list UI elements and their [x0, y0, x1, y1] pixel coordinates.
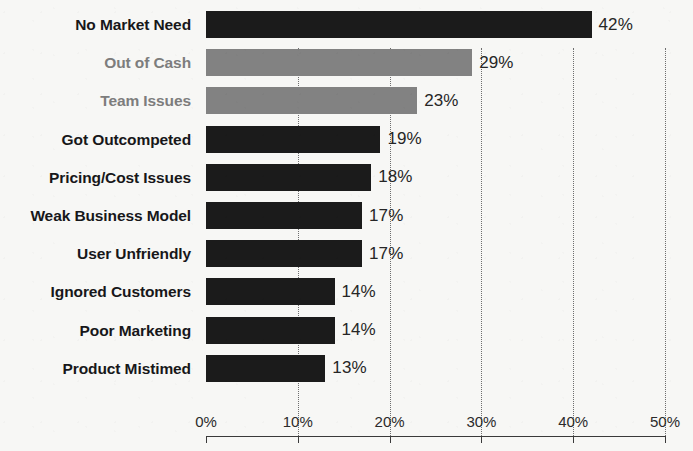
category-label: Product Mistimed: [63, 355, 191, 382]
x-axis-tick-labels: 0%10%20%30%40%50%: [206, 413, 665, 435]
x-axis-tick-label: 10%: [283, 413, 313, 430]
category-label: Pricing/Cost Issues: [49, 164, 191, 191]
bar-value-label: 23%: [424, 91, 458, 111]
x-axis-tick: [481, 436, 482, 443]
bar-row: 23%: [206, 87, 665, 114]
x-axis-line: [206, 436, 665, 437]
bar-row: 14%: [206, 317, 665, 344]
category-label: User Unfriendly: [77, 240, 191, 267]
bar[interactable]: [206, 202, 362, 229]
x-axis-tick-label: 50%: [650, 413, 680, 430]
bar[interactable]: [206, 355, 325, 382]
bar-row: 18%: [206, 164, 665, 191]
x-axis-tick-label: 20%: [375, 413, 405, 430]
gridline-50%: [665, 48, 666, 436]
category-label: Out of Cash: [104, 49, 191, 76]
bar[interactable]: [206, 49, 472, 76]
bar-value-label: 14%: [342, 282, 376, 302]
bar-row: 14%: [206, 278, 665, 305]
category-label: Got Outcompeted: [62, 126, 191, 153]
bar-value-label: 17%: [369, 244, 403, 264]
bar-value-label: 13%: [332, 358, 366, 378]
bar[interactable]: [206, 164, 371, 191]
bar[interactable]: [206, 317, 335, 344]
category-label: Weak Business Model: [30, 202, 191, 229]
category-label: No Market Need: [75, 11, 191, 38]
category-label: Poor Marketing: [80, 317, 191, 344]
bar-value-label: 17%: [369, 206, 403, 226]
bar[interactable]: [206, 278, 335, 305]
bar-row: 19%: [206, 126, 665, 153]
plot-area: 42%29%23%19%18%17%17%14%14%13%: [206, 0, 665, 436]
x-axis-tick-label: 40%: [558, 413, 588, 430]
bar[interactable]: [206, 87, 417, 114]
bar-row: 29%: [206, 49, 665, 76]
category-label: Ignored Customers: [51, 278, 191, 305]
category-label: Team Issues: [100, 87, 191, 114]
bar-row: 13%: [206, 355, 665, 382]
bar-value-label: 14%: [342, 320, 376, 340]
bar-row: 17%: [206, 202, 665, 229]
category-axis-labels: No Market NeedOut of CashTeam IssuesGot …: [0, 0, 191, 436]
bar[interactable]: [206, 126, 380, 153]
x-axis-tick: [206, 436, 207, 443]
x-axis: [206, 436, 665, 451]
bar[interactable]: [206, 240, 362, 267]
bar-value-label: 29%: [479, 53, 513, 73]
x-axis-tick-label: 30%: [466, 413, 496, 430]
x-axis-tick-label: 0%: [195, 413, 217, 430]
x-axis-tick: [573, 436, 574, 443]
chart-page: No Market NeedOut of CashTeam IssuesGot …: [0, 0, 693, 451]
x-axis-tick: [390, 436, 391, 443]
x-axis-tick: [298, 436, 299, 443]
bar-value-label: 18%: [378, 167, 412, 187]
bar-row: 17%: [206, 240, 665, 267]
bar-value-label: 42%: [599, 15, 633, 35]
bar[interactable]: [206, 11, 592, 38]
bar-value-label: 19%: [387, 129, 421, 149]
bar-row: 42%: [206, 11, 665, 38]
x-axis-tick: [665, 436, 666, 443]
